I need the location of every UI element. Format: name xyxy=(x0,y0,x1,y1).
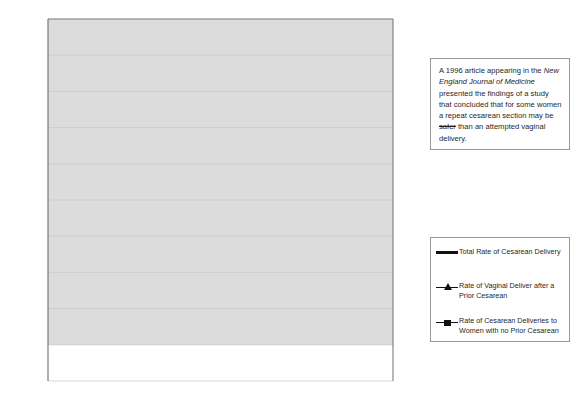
note-text-run: presented the findings of a study that c… xyxy=(439,89,561,121)
legend-item-label: Rate of Cesarean Deliveries to Women wit… xyxy=(459,316,567,336)
article-note-text: A 1996 article appearing in the New Engl… xyxy=(439,65,562,144)
legend-item-no-prior-cesarean: Rate of Cesarean Deliveries to Women wit… xyxy=(435,316,567,336)
legend-item-total-rate: Total Rate of Cesarean Delivery xyxy=(435,247,560,259)
note-text-run: than an attempted vaginal delivery. xyxy=(439,122,545,142)
triangle-marker-swatch-icon xyxy=(435,282,459,293)
plot-background xyxy=(48,19,393,345)
legend-item-vbac: Rate of Vaginal Deliver after a Prior Ce… xyxy=(435,281,567,301)
legend-item-label: Rate of Vaginal Deliver after a Prior Ce… xyxy=(459,281,567,301)
note-text-run: safer xyxy=(439,122,456,131)
plot-background-lower xyxy=(48,345,393,381)
chart-canvas xyxy=(0,0,420,416)
square-marker-swatch-icon xyxy=(435,317,459,328)
chart-legend: Total Rate of Cesarean Delivery Rate of … xyxy=(430,237,570,342)
chart-page: A 1996 article appearing in the New Engl… xyxy=(0,0,578,416)
thick-line-swatch-icon xyxy=(435,248,459,259)
article-note-box: A 1996 article appearing in the New Engl… xyxy=(430,58,570,150)
chart-figure xyxy=(0,0,420,416)
note-text-run: A 1996 article appearing in the xyxy=(439,66,544,75)
legend-item-label: Total Rate of Cesarean Delivery xyxy=(459,247,560,257)
